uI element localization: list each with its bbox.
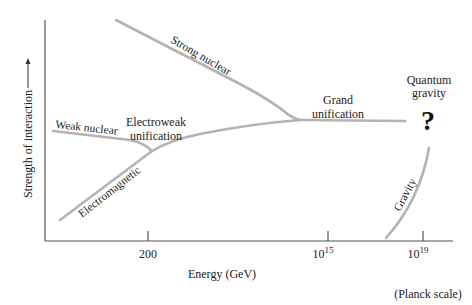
strong-nuclear-curve xyxy=(116,20,300,120)
force-unification-diagram: 200 1015 1019 Energy (GeV) (Planck scale… xyxy=(0,0,472,305)
electromagnetic-label: Electromagnetic xyxy=(76,164,143,221)
grand-unification-label-line2: unification xyxy=(312,107,364,121)
tick-label-1e19: 1019 xyxy=(408,245,430,261)
y-axis-label-group: Strength of interaction xyxy=(21,90,35,198)
y-axis-label: Strength of interaction xyxy=(21,90,35,198)
question-mark-icon: ? xyxy=(421,105,435,136)
electroweak-label-line2: unification xyxy=(130,129,182,143)
quantum-gravity-label-line2: gravity xyxy=(412,86,446,100)
x-axis-label: Energy (GeV) xyxy=(188,267,256,281)
planck-scale-note: (Planck scale) xyxy=(394,287,462,301)
tick-label-200: 200 xyxy=(139,247,157,261)
strong-nuclear-label: Strong nuclear xyxy=(169,33,234,78)
grand-unification-label-line1: Grand xyxy=(323,93,353,107)
arrow-up-icon xyxy=(26,58,31,64)
electroweak-label-line1: Electroweak xyxy=(126,115,186,129)
tick-label-1e15: 1015 xyxy=(313,245,335,261)
quantum-gravity-label-line1: Quantum xyxy=(407,73,452,87)
